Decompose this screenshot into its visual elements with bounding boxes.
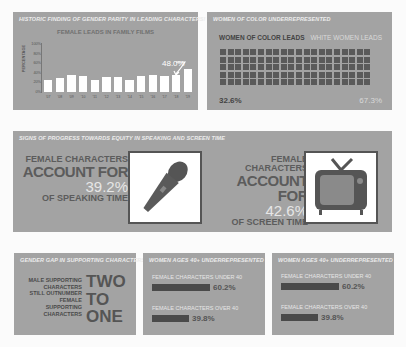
waffle-grid [220, 49, 370, 85]
waffle-cell [288, 79, 294, 85]
waffle-cell [228, 57, 234, 63]
bar [56, 78, 64, 92]
waffle-cell [342, 49, 348, 55]
waffle-cell [258, 64, 264, 70]
waffle-cell [319, 64, 325, 70]
over-40-label: FEMALE CHARACTERS OVER 40 [281, 304, 367, 310]
woc-percentage: 32.6% [219, 96, 242, 105]
television-icon-box [304, 151, 378, 224]
waffle-cell [235, 49, 241, 55]
x-tick-label: '19 [184, 95, 192, 99]
waffle-cell [296, 64, 302, 70]
waffle-cell [281, 57, 287, 63]
y-tick-label: 40% [33, 71, 41, 75]
waffle-cell [311, 79, 317, 85]
waffle-cell [326, 64, 332, 70]
y-tick-label: 100% [31, 42, 41, 46]
waffle-cell [281, 49, 287, 55]
bar-series [44, 44, 192, 92]
waffle-cell [266, 72, 272, 78]
ages-40-panel-a: WOMEN AGES 40+ UNDERREPRESENTED FEMALE C… [143, 253, 265, 335]
waffle-cell [220, 64, 226, 70]
waffle-cell [266, 49, 272, 55]
waffle-cell [304, 79, 310, 85]
y-tick-label: 80% [33, 52, 41, 56]
waffle-cell [349, 72, 355, 78]
chart-subtitle: FEMALE LEADS IN FAMILY FILMS [13, 29, 198, 35]
over-40-value: 39.8% [321, 313, 344, 322]
waffle-cell [319, 57, 325, 63]
under-40-value: 60.2% [342, 282, 365, 291]
waffle-cell [288, 49, 294, 55]
y-axis-line [41, 43, 42, 93]
waffle-cell [304, 57, 310, 63]
x-tick-label: '15 [137, 95, 145, 99]
waffle-cell [364, 72, 370, 78]
waffle-cell [311, 49, 317, 55]
x-tick-label: '14 [125, 95, 133, 99]
waffle-cell [296, 72, 302, 78]
waffle-cell [349, 79, 355, 85]
progress-panel: SIGNS OF PROGRESS TOWARDS EQUITY IN SPEA… [13, 131, 392, 232]
waffle-cell [228, 79, 234, 85]
waffle-cell [258, 79, 264, 85]
waffle-cell [220, 57, 226, 63]
under-40-bar [281, 283, 339, 290]
waffle-cell [349, 64, 355, 70]
stat-value: 42.6% [216, 203, 308, 218]
waffle-cell [311, 64, 317, 70]
waffle-cell [235, 64, 241, 70]
waffle-cell [357, 57, 363, 63]
waffle-cell [243, 64, 249, 70]
bar [137, 76, 145, 92]
woc-legend-label: WOMEN OF COLOR LEADS [219, 34, 305, 41]
x-tick-label: '10 [79, 95, 87, 99]
bar [149, 75, 157, 92]
panel-title: GENDER GAP IN SUPPORTING CHARACTERS [20, 257, 145, 263]
waffle-cell [296, 49, 302, 55]
waffle-cell [304, 72, 310, 78]
screen-time-stat: FEMALE CHARACTERS ACCOUNT FOR 42.6% OF S… [216, 155, 308, 227]
waffle-cell [288, 57, 294, 63]
waffle-cell [250, 49, 256, 55]
ratio-line: ONE [86, 308, 126, 326]
ratio-line: TWO [86, 273, 126, 291]
desc-line: SUPPORTING [22, 304, 82, 311]
waffle-cell [266, 64, 272, 70]
waffle-cell [220, 79, 226, 85]
waffle-cell [334, 72, 340, 78]
waffle-cell [349, 57, 355, 63]
panel-title: HISTORIC FINDING OF GENDER PARITY IN LEA… [19, 16, 206, 22]
panel-title: WOMEN OF COLOR UNDERREPRESENTED [213, 16, 331, 22]
supporting-description: MALE SUPPORTING CHARACTERS STILL OUTNUMB… [22, 277, 82, 317]
waffle-cell [304, 64, 310, 70]
waffle-cell [243, 49, 249, 55]
waffle-cell [250, 64, 256, 70]
waffle-cell [296, 57, 302, 63]
x-tick-label: '12 [102, 95, 110, 99]
waffle-cell [243, 72, 249, 78]
panel-title: SIGNS OF PROGRESS TOWARDS EQUITY IN SPEA… [19, 135, 225, 141]
waffle-cell [326, 72, 332, 78]
waffle-cell [326, 57, 332, 63]
bar [67, 75, 75, 92]
ratio-line: TO [86, 291, 126, 309]
speaking-time-stat: FEMALE CHARACTERS ACCOUNT FOR 39.2% OF S… [21, 155, 128, 203]
waffle-cell [220, 72, 226, 78]
x-axis-ticks: '07'08'09'10'11'12'13'14'15'16'17'18'19 [44, 95, 192, 99]
waffle-cell [220, 49, 226, 55]
female-leads-panel: HISTORIC FINDING OF GENDER PARITY IN LEA… [13, 12, 198, 110]
over-40-value: 39.8% [192, 314, 215, 323]
waffle-cell [364, 57, 370, 63]
waffle-cell [319, 49, 325, 55]
waffle-cell [228, 72, 234, 78]
stat-line: ACCOUNT FOR [216, 173, 308, 203]
waffle-cell [357, 79, 363, 85]
desc-line: CHARACTERS [22, 284, 82, 291]
ratio-headline: TWO TO ONE [86, 273, 126, 326]
waffle-cell [243, 57, 249, 63]
desc-line: FEMALE [22, 297, 82, 304]
waffle-cell [235, 72, 241, 78]
waffle-cell [281, 72, 287, 78]
white-women-percentage: 67.3% [359, 96, 382, 105]
